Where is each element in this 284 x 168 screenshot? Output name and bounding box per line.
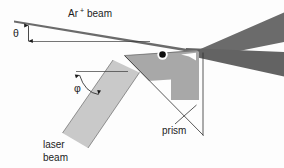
prism-label: prism [162, 125, 186, 136]
figure-container: Ar + beam θ φ prism laser beam [0, 0, 284, 168]
ar-beam-word-label: beam [87, 8, 112, 19]
theta-label: θ [13, 27, 19, 39]
ar-beam-species-label: Ar [68, 8, 79, 19]
interaction-point [157, 49, 167, 59]
crossing-beam [186, 48, 284, 77]
prism-leader-line [175, 105, 197, 124]
laser-beam-body [63, 60, 140, 148]
ar-ion-beam [14, 13, 284, 57]
diagram-canvas: Ar + beam θ φ prism laser beam [0, 0, 284, 168]
laser-label-line2: beam [43, 152, 68, 163]
laser-label-line1: laser [43, 139, 65, 150]
ar-beam-charge-label: + [80, 7, 84, 14]
laser-beam-shape [63, 60, 140, 148]
phi-label: φ [74, 82, 81, 94]
interaction-point-dot [159, 51, 166, 58]
prism-shape [124, 50, 204, 136]
crossing-beam-wedge [186, 48, 284, 77]
ar-ion-beam-wedge [14, 13, 284, 57]
